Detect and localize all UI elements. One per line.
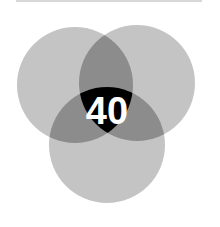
center-value-label: 40 — [86, 90, 128, 132]
venn-diagram: 40 — [0, 0, 220, 227]
